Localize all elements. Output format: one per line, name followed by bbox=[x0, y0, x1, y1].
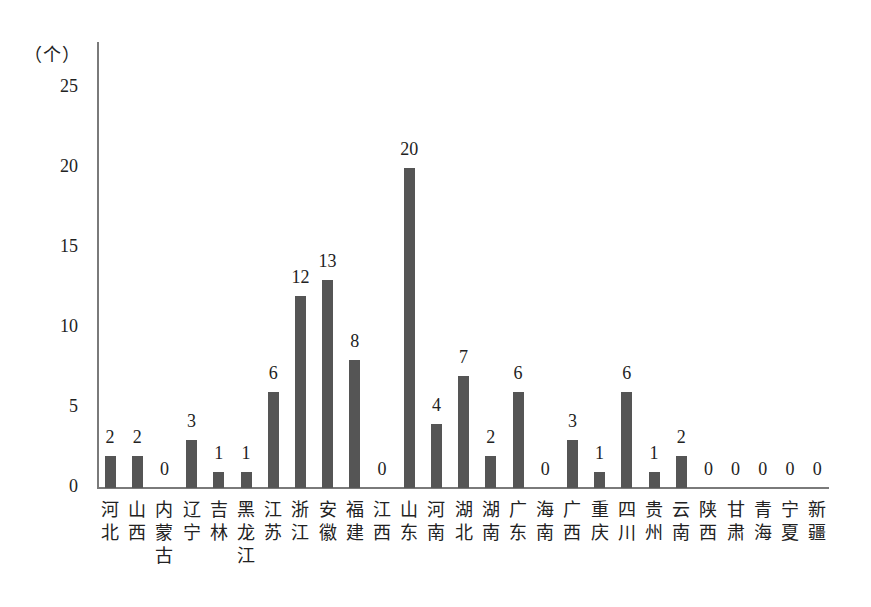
data-label: 4 bbox=[421, 395, 451, 416]
x-tick-label: 广东 bbox=[506, 498, 530, 544]
x-tick-label: 贵州 bbox=[642, 498, 666, 544]
x-tick-label: 宁夏 bbox=[778, 498, 802, 544]
y-tick-label: 25 bbox=[38, 76, 78, 97]
data-label: 12 bbox=[285, 267, 315, 288]
x-tick-label: 甘肃 bbox=[724, 498, 748, 544]
bar bbox=[186, 440, 197, 488]
y-tick-label: 20 bbox=[38, 156, 78, 177]
x-tick-label: 陕西 bbox=[696, 498, 720, 544]
bar bbox=[513, 392, 524, 488]
bar bbox=[567, 440, 578, 488]
data-label: 0 bbox=[802, 459, 832, 480]
x-tick-label: 海南 bbox=[533, 498, 557, 544]
data-label: 6 bbox=[503, 363, 533, 384]
bar bbox=[349, 360, 360, 488]
data-label: 20 bbox=[394, 139, 424, 160]
data-label: 2 bbox=[476, 427, 506, 448]
data-label: 1 bbox=[231, 443, 261, 464]
data-label: 0 bbox=[149, 459, 179, 480]
x-tick-label: 山西 bbox=[125, 498, 149, 544]
data-label: 0 bbox=[775, 459, 805, 480]
x-tick-label: 江苏 bbox=[261, 498, 285, 544]
x-tick-label: 安徽 bbox=[316, 498, 340, 544]
bar bbox=[676, 456, 687, 488]
y-tick-label: 0 bbox=[38, 476, 78, 497]
data-label: 13 bbox=[313, 251, 343, 272]
bar-chart: （个） 0510152025 2河北2山西0内蒙古3辽宁1吉林1黑龙江6江苏12… bbox=[0, 0, 871, 607]
data-label: 3 bbox=[177, 411, 207, 432]
bar bbox=[322, 280, 333, 488]
x-tick-label: 内蒙古 bbox=[152, 498, 176, 567]
x-tick-label: 青海 bbox=[751, 498, 775, 544]
data-label: 0 bbox=[748, 459, 778, 480]
bar bbox=[649, 472, 660, 488]
x-tick-label: 福建 bbox=[343, 498, 367, 544]
data-label: 6 bbox=[612, 363, 642, 384]
bar bbox=[132, 456, 143, 488]
bar bbox=[404, 168, 415, 488]
x-tick-label: 浙江 bbox=[288, 498, 312, 544]
bar bbox=[268, 392, 279, 488]
bar bbox=[105, 456, 116, 488]
x-tick-label: 湖北 bbox=[452, 498, 476, 544]
data-label: 7 bbox=[449, 347, 479, 368]
data-label: 1 bbox=[639, 443, 669, 464]
data-label: 1 bbox=[585, 443, 615, 464]
data-label: 2 bbox=[666, 427, 696, 448]
data-label: 6 bbox=[258, 363, 288, 384]
bar bbox=[485, 456, 496, 488]
x-tick-label: 吉林 bbox=[207, 498, 231, 544]
data-label: 8 bbox=[340, 331, 370, 352]
data-label: 0 bbox=[530, 459, 560, 480]
bar bbox=[458, 376, 469, 488]
y-tick-label: 5 bbox=[38, 396, 78, 417]
y-tick-label: 10 bbox=[38, 316, 78, 337]
y-axis-unit-label: （个） bbox=[24, 40, 81, 66]
data-label: 0 bbox=[693, 459, 723, 480]
bar bbox=[295, 296, 306, 488]
bar bbox=[213, 472, 224, 488]
x-tick-label: 重庆 bbox=[588, 498, 612, 544]
data-label: 1 bbox=[204, 443, 234, 464]
x-tick-label: 河北 bbox=[98, 498, 122, 544]
x-tick-label: 广西 bbox=[560, 498, 584, 544]
data-label: 0 bbox=[367, 459, 397, 480]
x-tick-label: 新疆 bbox=[805, 498, 829, 544]
bar bbox=[621, 392, 632, 488]
data-label: 2 bbox=[95, 427, 125, 448]
x-tick-label: 湖南 bbox=[479, 498, 503, 544]
data-label: 0 bbox=[721, 459, 751, 480]
bar bbox=[241, 472, 252, 488]
bar bbox=[431, 424, 442, 488]
x-tick-label: 江西 bbox=[370, 498, 394, 544]
bar bbox=[594, 472, 605, 488]
x-tick-label: 山东 bbox=[397, 498, 421, 544]
x-tick-label: 黑龙江 bbox=[234, 498, 258, 567]
x-tick-label: 云南 bbox=[669, 498, 693, 544]
y-tick-label: 15 bbox=[38, 236, 78, 257]
x-tick-label: 四川 bbox=[615, 498, 639, 544]
x-tick-label: 辽宁 bbox=[180, 498, 204, 544]
y-axis-line bbox=[97, 42, 99, 489]
x-tick-label: 河南 bbox=[424, 498, 448, 544]
data-label: 2 bbox=[122, 427, 152, 448]
data-label: 3 bbox=[557, 411, 587, 432]
